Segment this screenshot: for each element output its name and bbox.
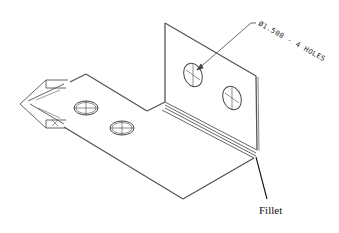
vertical-flange xyxy=(165,23,259,151)
fillet-callout-label: Fillet xyxy=(259,204,282,216)
plate-hole-2 xyxy=(110,121,134,135)
fillet-bend-lines xyxy=(162,102,257,158)
flange-hole-2 xyxy=(219,84,244,113)
drawing-canvas: Ø1.500 - 4 HOLES xyxy=(0,0,339,233)
dimension-arrows xyxy=(20,80,68,128)
hole-note: Ø1.500 - 4 HOLES xyxy=(257,20,327,64)
plate-hole-1 xyxy=(74,101,98,115)
fillet-leader xyxy=(256,157,267,199)
